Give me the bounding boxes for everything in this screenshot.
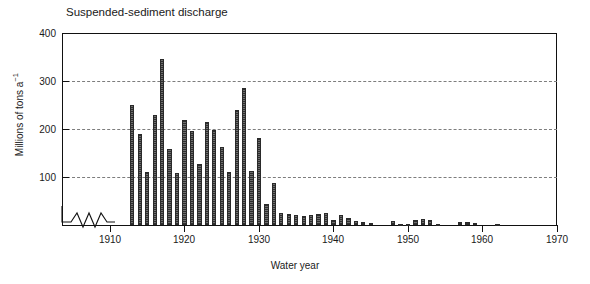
axis-break-zigzag xyxy=(55,205,117,229)
bar-1915 xyxy=(145,172,149,225)
bar-1940 xyxy=(331,220,335,225)
y-tick-label-300: 300 xyxy=(39,76,56,87)
bar-1932 xyxy=(272,183,276,225)
bar-1949 xyxy=(398,224,402,226)
gridline-200 xyxy=(62,129,557,130)
bar-1958 xyxy=(465,222,469,225)
bar-1962 xyxy=(495,224,499,226)
y-tick-label-400: 400 xyxy=(39,28,56,39)
y-tick-mark-400 xyxy=(62,33,69,34)
bar-1957 xyxy=(458,222,462,225)
bar-1959 xyxy=(473,223,477,225)
bar-1948 xyxy=(391,221,395,225)
x-tick-label-1970: 1970 xyxy=(546,234,568,245)
bar-1914 xyxy=(138,134,142,225)
x-tick-mark-1930 xyxy=(259,225,260,232)
bar-1931 xyxy=(264,204,268,225)
bar-1916 xyxy=(153,115,157,225)
y-tick-mark-200 xyxy=(62,129,69,130)
bar-1920 xyxy=(182,120,186,225)
bar-1918 xyxy=(167,149,171,225)
bar-1922 xyxy=(197,164,201,225)
x-tick-mark-1940 xyxy=(333,225,334,232)
x-axis-label: Water year xyxy=(0,260,590,271)
x-axis-line xyxy=(62,225,558,226)
bar-1939 xyxy=(324,213,328,225)
x-tick-label-1920: 1920 xyxy=(173,234,195,245)
bar-1953 xyxy=(428,220,432,225)
bar-1954 xyxy=(436,224,440,226)
bar-1938 xyxy=(316,214,320,225)
bar-1924 xyxy=(212,130,216,225)
x-tick-label-1910: 1910 xyxy=(99,234,121,245)
bar-1937 xyxy=(309,215,313,225)
y-tick-label-100: 100 xyxy=(39,172,56,183)
gridline-300 xyxy=(62,81,557,82)
y-axis-label-text: Millions of tons a xyxy=(14,82,25,156)
bar-1945 xyxy=(369,223,373,225)
y-tick-mark-300 xyxy=(62,81,69,82)
bar-1943 xyxy=(354,221,358,225)
x-tick-mark-1910 xyxy=(110,225,111,232)
x-tick-label-1930: 1930 xyxy=(248,234,270,245)
chart-figure: Suspended-sediment discharge Millions of… xyxy=(0,0,590,284)
x-tick-mark-1970 xyxy=(557,225,558,232)
chart-title: Suspended-sediment discharge xyxy=(66,6,228,18)
y-tick-mark-100 xyxy=(62,177,69,178)
bar-1926 xyxy=(227,172,231,225)
x-tick-label-1940: 1940 xyxy=(322,234,344,245)
bar-1933 xyxy=(279,213,283,225)
bar-1942 xyxy=(346,218,350,225)
bar-1925 xyxy=(220,147,224,225)
x-tick-mark-1960 xyxy=(482,225,483,232)
bar-1923 xyxy=(205,122,209,225)
bar-1952 xyxy=(421,219,425,225)
x-tick-label-1950: 1950 xyxy=(397,234,419,245)
bar-1928 xyxy=(242,88,246,225)
x-tick-mark-1920 xyxy=(184,225,185,232)
x-tick-mark-1950 xyxy=(408,225,409,232)
bar-1936 xyxy=(302,216,306,225)
y-axis-label: Millions of tons a−1 xyxy=(11,45,24,185)
bar-1919 xyxy=(175,173,179,225)
bar-1929 xyxy=(249,171,253,225)
x-tick-label-1960: 1960 xyxy=(471,234,493,245)
bar-1927 xyxy=(235,110,239,225)
bar-1944 xyxy=(361,222,365,225)
bar-1950 xyxy=(406,224,410,226)
bar-1921 xyxy=(190,131,194,225)
bar-1951 xyxy=(413,220,417,225)
bar-1917 xyxy=(160,59,164,225)
bar-1935 xyxy=(294,215,298,225)
gridline-100 xyxy=(62,177,557,178)
y-axis-label-exponent: −1 xyxy=(11,73,20,82)
y-tick-label-200: 200 xyxy=(39,124,56,135)
bar-1913 xyxy=(130,105,134,225)
bar-1941 xyxy=(339,215,343,225)
bar-1934 xyxy=(287,214,291,225)
bar-1930 xyxy=(257,138,261,225)
